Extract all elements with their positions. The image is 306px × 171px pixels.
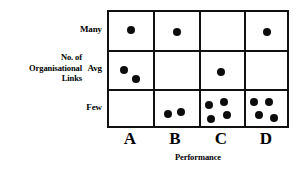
- y-tick-label-many: Many: [62, 24, 102, 34]
- grid-line-vertical-3: [244, 12, 246, 126]
- plot-area: [107, 10, 289, 128]
- data-point: [207, 115, 215, 123]
- data-point: [127, 26, 135, 34]
- y-tick-label-few: Few: [62, 102, 102, 112]
- data-point: [173, 28, 181, 36]
- dot-matrix-chart: No. of Organisational Links Many Avg Few…: [0, 0, 306, 171]
- data-point: [255, 111, 263, 119]
- x-tick-label-a: A: [107, 129, 153, 149]
- grid-line-vertical-2: [199, 12, 201, 126]
- data-point: [177, 108, 185, 116]
- data-point: [164, 110, 172, 118]
- grid-line-horizontal-1: [109, 50, 287, 52]
- data-point: [120, 66, 128, 74]
- y-axis-title-line-3: Links: [4, 73, 82, 84]
- x-tick-label-c: C: [198, 129, 244, 149]
- data-point: [263, 28, 271, 36]
- x-axis-title: Performance: [107, 152, 289, 162]
- data-point: [265, 98, 273, 106]
- grid-line-horizontal-2: [109, 89, 287, 91]
- data-point: [217, 68, 225, 76]
- grid-line-vertical-1: [153, 12, 155, 126]
- data-point: [250, 98, 258, 106]
- x-tick-label-d: D: [243, 129, 289, 149]
- data-point: [270, 114, 278, 122]
- y-axis-title-line-1: No. of: [4, 52, 82, 63]
- data-point: [205, 101, 213, 109]
- data-point: [132, 75, 140, 83]
- data-point: [223, 111, 231, 119]
- x-tick-label-b: B: [152, 129, 198, 149]
- y-tick-label-avg: Avg: [62, 63, 102, 73]
- data-point: [220, 98, 228, 106]
